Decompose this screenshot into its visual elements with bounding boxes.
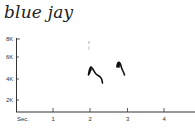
y-tick-labels: 8K 6K 4K 2K [6, 36, 13, 103]
y-tick-label: 4K [6, 76, 13, 82]
y-ticks [17, 39, 21, 100]
x-ticks [53, 108, 164, 112]
y-tick-label: 6K [6, 54, 13, 60]
x-tick-labels: Sec. 1 2 3 4 [17, 116, 167, 122]
y-tick-label: 8K [6, 36, 13, 42]
x-tick-label: 2 [89, 116, 93, 122]
x-tick-label: 4 [163, 116, 167, 122]
x-tick-label: 3 [126, 116, 130, 122]
sonogram-plot: 8K 6K 4K 2K Sec. 1 2 3 4 [0, 0, 195, 138]
x-axis-label: Sec. [17, 116, 29, 122]
x-tick-label: 1 [52, 116, 56, 122]
y-tick-label: 2K [6, 97, 13, 103]
